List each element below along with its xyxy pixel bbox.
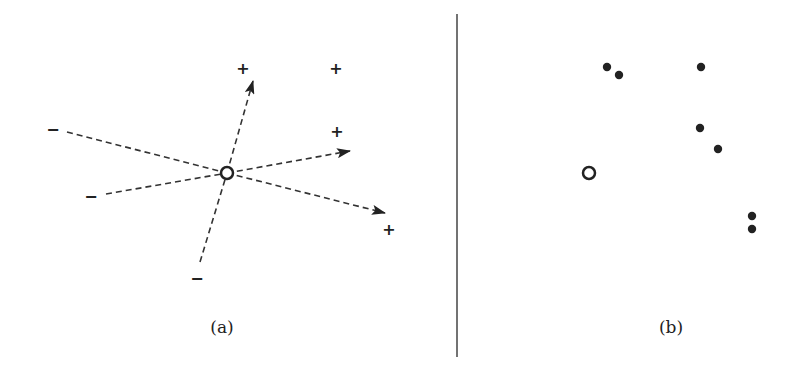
- minus-label: −: [46, 120, 59, 139]
- arrow: [227, 81, 253, 173]
- panel-a-caption: (a): [210, 317, 233, 337]
- plus-label: +: [329, 59, 342, 78]
- diagram-canvas: ++++−−− (a) (b): [0, 0, 799, 384]
- plus-label: +: [236, 59, 249, 78]
- panel-a: ++++−−− (a): [46, 59, 395, 337]
- outgoing-arrows: [227, 81, 385, 213]
- arrow: [227, 173, 385, 213]
- dashed-line: [67, 132, 227, 173]
- panel-b: (b): [583, 63, 756, 337]
- dashed-line: [200, 173, 227, 262]
- arrow: [227, 151, 350, 173]
- minus-label: −: [190, 269, 203, 288]
- plus-label: +: [330, 122, 343, 141]
- open-circle-icon: [583, 167, 595, 179]
- filled-point: [748, 225, 756, 233]
- filled-points: [603, 63, 756, 233]
- query-point: [221, 167, 233, 179]
- filled-point: [714, 145, 722, 153]
- open-circle-icon: [221, 167, 233, 179]
- filled-point: [603, 63, 611, 71]
- filled-point: [748, 212, 756, 220]
- plus-label: +: [382, 220, 395, 239]
- dashed-line: [106, 173, 227, 194]
- filled-point: [696, 124, 704, 132]
- panel-b-caption: (b): [659, 317, 683, 337]
- minus-label: −: [84, 187, 97, 206]
- filled-point: [697, 63, 705, 71]
- filled-point: [615, 71, 623, 79]
- open-point: [583, 167, 595, 179]
